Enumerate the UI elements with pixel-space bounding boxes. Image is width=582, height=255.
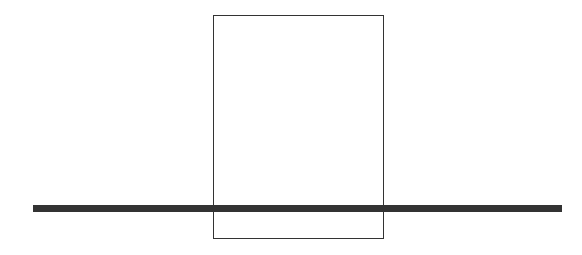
horizontal-bar — [33, 205, 562, 212]
